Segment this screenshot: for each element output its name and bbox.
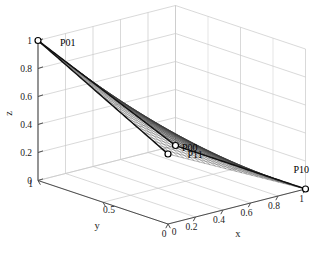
surface-plot-figure: 00.20.40.60.8100.20.40.60.8100.51 zxy P0… — [0, 0, 333, 262]
y-axis-title: y — [94, 220, 100, 231]
z-tick-label: 0.8 — [20, 64, 32, 74]
x-tick-label: 0 — [162, 229, 167, 239]
x-axis-title: x — [235, 228, 241, 239]
floor-grid — [38, 146, 306, 225]
point-annotations: P00P01P10P11 — [60, 37, 309, 176]
plot-canvas: 00.20.40.60.8100.20.40.60.8100.51 zxy P0… — [0, 0, 333, 262]
x-tick-label: 1 — [299, 194, 304, 204]
background-grid-walls — [38, 6, 306, 190]
axis-titles: zxy — [3, 111, 241, 239]
x-tick-label: 0.8 — [268, 201, 280, 211]
point-label-p10: P10 — [294, 164, 310, 175]
point-label-p01: P01 — [60, 37, 76, 48]
y-tick-label: 0.5 — [103, 205, 115, 215]
z-tick-label: 0.4 — [20, 120, 32, 130]
z-tick-label: 0.6 — [20, 92, 32, 102]
point-label-p11: P11 — [188, 149, 203, 160]
z-tick-label: 1 — [27, 36, 32, 46]
z-axis-title: z — [3, 111, 14, 116]
y-tick-label: 1 — [28, 179, 33, 189]
x-tick-label: 0.4 — [213, 215, 225, 225]
y-tick-label: 0 — [172, 227, 177, 237]
tick-labels: 00.20.40.60.8100.20.40.60.8100.51 — [20, 36, 304, 239]
x-tick-label: 0.6 — [241, 208, 253, 218]
z-tick-label: 0.2 — [20, 148, 32, 158]
x-tick-label: 0.2 — [186, 222, 198, 232]
